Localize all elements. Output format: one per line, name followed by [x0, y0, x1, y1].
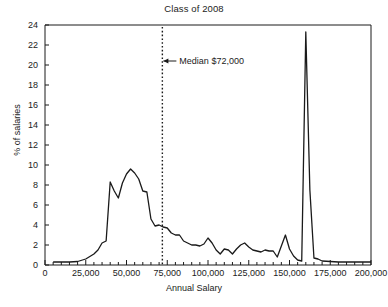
plot-area [0, 0, 388, 307]
data-line-salaries [53, 32, 371, 262]
chart-container: Class of 2008 % of salaries Annual Salar… [0, 0, 388, 307]
median-annotation-label: Median $72,000 [179, 56, 244, 66]
median-arrow-head [163, 58, 168, 63]
